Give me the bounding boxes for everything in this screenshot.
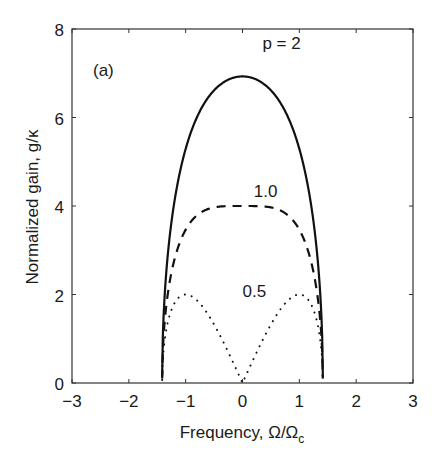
x-axis-label-main: Frequency, Ω/Ω — [180, 423, 299, 442]
panel-label: (a) — [93, 61, 114, 80]
plot-frame-border — [72, 29, 413, 383]
x-tick-label: −2 — [119, 392, 138, 411]
x-tick-label: 2 — [351, 392, 360, 411]
plot-area — [72, 29, 413, 383]
x-tick-label: −1 — [176, 392, 195, 411]
y-tick-label: 6 — [55, 110, 64, 129]
x-tick-label: −3 — [62, 392, 81, 411]
x-axis-label: Frequency, Ω/Ωc — [180, 423, 305, 446]
series-dotted — [162, 295, 323, 384]
x-tick-label: 1 — [295, 392, 304, 411]
series-layer — [162, 76, 323, 383]
y-tick-label: 4 — [55, 198, 64, 217]
annotation-p05: 0.5 — [243, 282, 267, 301]
x-tick-label: 3 — [408, 392, 417, 411]
y-tick-label: 0 — [55, 375, 64, 394]
x-tick-label: 0 — [238, 392, 247, 411]
x-axis-ticks: −3−2−10123 — [62, 29, 417, 411]
y-axis-label: Normalized gain, g/κ — [23, 129, 42, 284]
gain-spectrum-chart: −3−2−10123 02468 (a) p = 2 1.0 0.5 Frequ… — [0, 0, 438, 473]
annotation-p1: 1.0 — [254, 182, 278, 201]
x-axis-label-subscript: c — [298, 432, 304, 446]
annotation-p2: p = 2 — [262, 34, 300, 53]
y-tick-label: 8 — [55, 21, 64, 40]
y-tick-label: 2 — [55, 287, 64, 306]
